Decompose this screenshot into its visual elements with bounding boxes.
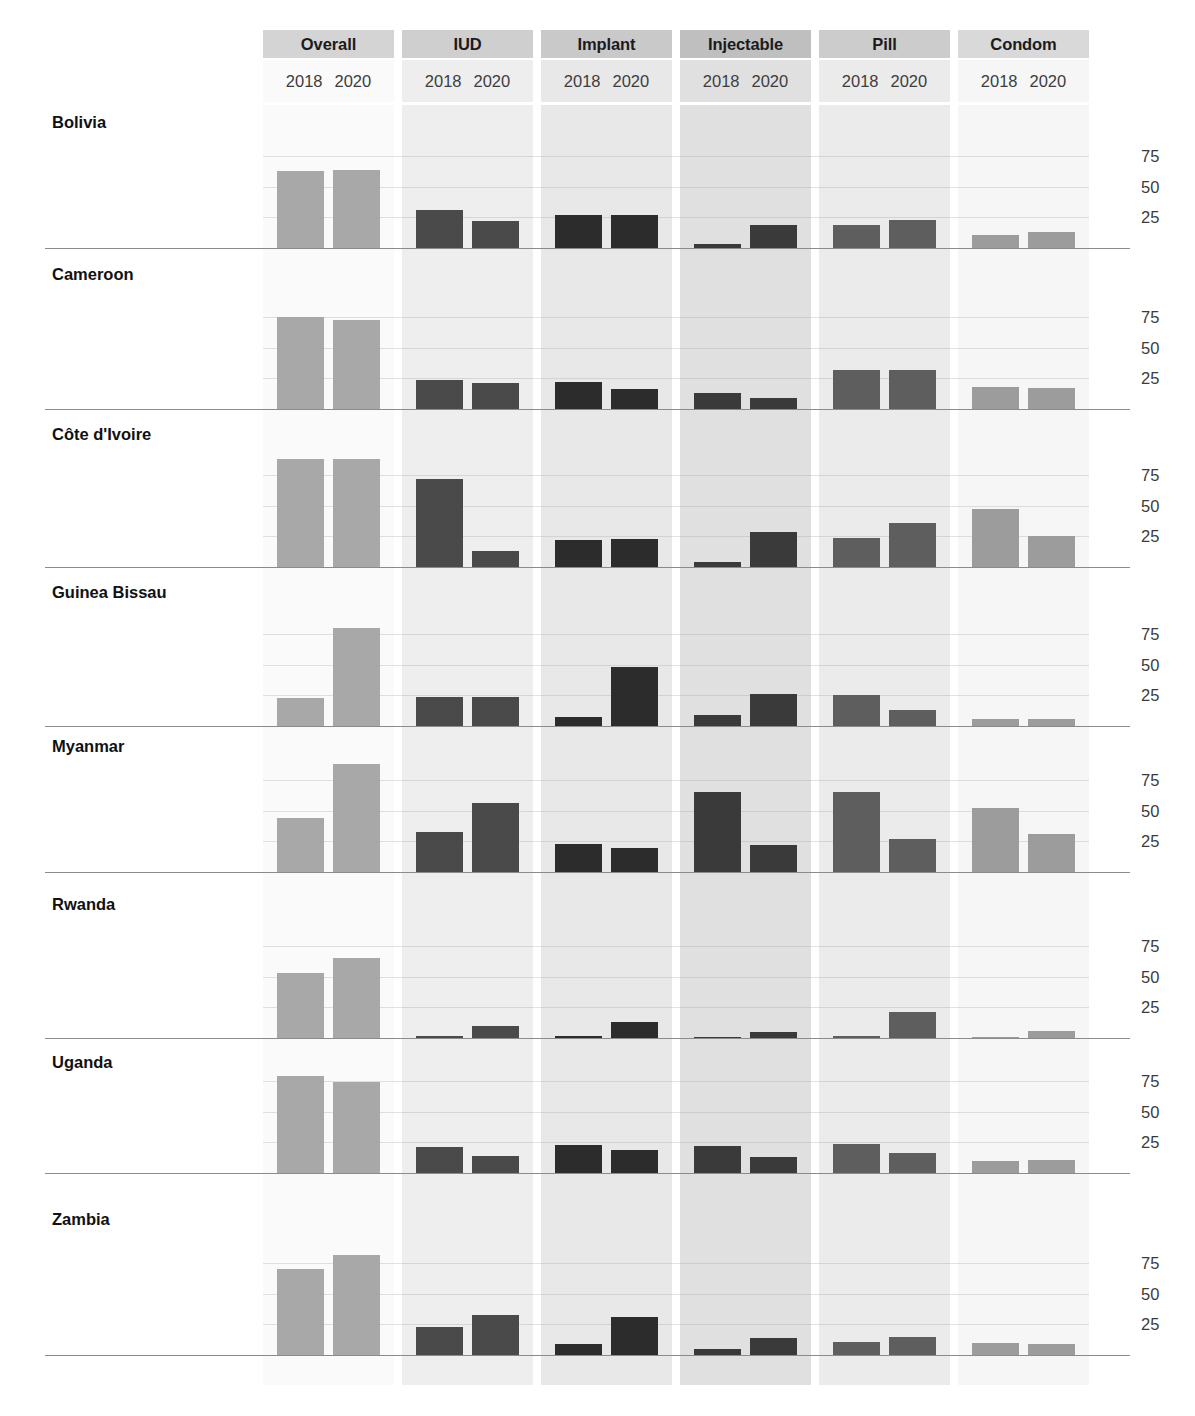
- country-label-c-te-d-ivoire: Côte d'Ivoire: [52, 425, 151, 444]
- bar: [694, 1146, 741, 1173]
- bar: [555, 1036, 602, 1038]
- gridline: [263, 1142, 1089, 1143]
- y-axis-tick-label: 25: [1141, 209, 1159, 226]
- bar: [555, 382, 602, 409]
- facet-year-labels-implant: 20182020: [541, 60, 672, 102]
- country-label-uganda: Uganda: [52, 1053, 113, 1072]
- facet-year-labels-injectable: 20182020: [680, 60, 811, 102]
- bar: [611, 1317, 658, 1355]
- gridline: [263, 946, 1089, 947]
- year-label: 2018: [286, 72, 323, 91]
- y-axis-tick-label: 50: [1141, 657, 1159, 674]
- row-baseline: [45, 567, 1130, 568]
- y-axis-tick-label: 50: [1141, 498, 1159, 515]
- bar: [833, 1036, 880, 1038]
- facet-column-background-iud: [402, 105, 533, 1385]
- y-axis-tick-label: 25: [1141, 1134, 1159, 1151]
- facet-grid-body: 755025Bolivia755025Cameroon755025Côte d'…: [0, 105, 1195, 1395]
- gridline: [263, 536, 1089, 537]
- bar: [889, 1337, 936, 1355]
- bar: [972, 235, 1019, 248]
- year-label: 2020: [752, 72, 789, 91]
- bar: [416, 1327, 463, 1355]
- bar: [611, 1022, 658, 1038]
- facet-header-condom: Condom: [958, 30, 1089, 58]
- facet-header-label: Overall: [301, 35, 356, 54]
- bar: [333, 764, 380, 872]
- country-label-rwanda: Rwanda: [52, 895, 115, 914]
- bar: [416, 832, 463, 872]
- y-axis-tick-label: 50: [1141, 969, 1159, 986]
- year-label: 2020: [335, 72, 372, 91]
- country-label-zambia: Zambia: [52, 1210, 110, 1229]
- y-axis-tick-label: 50: [1141, 340, 1159, 357]
- bar: [889, 1012, 936, 1038]
- bar: [472, 1026, 519, 1038]
- row-baseline: [45, 1038, 1130, 1039]
- year-label: 2018: [564, 72, 601, 91]
- bar: [611, 539, 658, 567]
- bar: [277, 1269, 324, 1355]
- facet-header-pill: Pill: [819, 30, 950, 58]
- facet-header-label: Implant: [578, 35, 636, 54]
- bar: [833, 1144, 880, 1173]
- bar: [1028, 719, 1075, 726]
- gridline: [263, 217, 1089, 218]
- bar: [750, 845, 797, 872]
- bar: [416, 479, 463, 567]
- gridline: [263, 378, 1089, 379]
- bar: [750, 694, 797, 726]
- bar: [416, 1036, 463, 1038]
- bar: [833, 370, 880, 409]
- bar: [611, 389, 658, 409]
- y-axis-tick-label: 50: [1141, 179, 1159, 196]
- bar: [1028, 1160, 1075, 1173]
- y-axis-tick-label: 25: [1141, 1316, 1159, 1333]
- bar: [750, 225, 797, 248]
- bar: [416, 1147, 463, 1173]
- y-axis-tick-label: 50: [1141, 803, 1159, 820]
- bar: [972, 387, 1019, 409]
- facet-header-iud: IUD: [402, 30, 533, 58]
- bar: [694, 562, 741, 567]
- country-label-guinea-bissau: Guinea Bissau: [52, 583, 167, 602]
- facet-year-labels-iud: 20182020: [402, 60, 533, 102]
- row-baseline: [45, 872, 1130, 873]
- facet-header-label: Pill: [872, 35, 896, 54]
- bar: [972, 1037, 1019, 1038]
- row-baseline: [45, 726, 1130, 727]
- y-axis-tick-label: 75: [1141, 309, 1159, 326]
- gridline: [263, 1081, 1089, 1082]
- year-label: 2018: [842, 72, 879, 91]
- year-label: 2018: [703, 72, 740, 91]
- gridline: [263, 1263, 1089, 1264]
- row-baseline: [45, 248, 1130, 249]
- bar: [694, 1037, 741, 1038]
- gridline: [263, 634, 1089, 635]
- y-axis-tick-label: 25: [1141, 370, 1159, 387]
- bar: [277, 1076, 324, 1173]
- gridline: [263, 977, 1089, 978]
- bar: [694, 792, 741, 872]
- country-label-myanmar: Myanmar: [52, 737, 124, 756]
- bar: [333, 1255, 380, 1355]
- bar: [694, 393, 741, 409]
- bar: [611, 1150, 658, 1173]
- bar: [555, 717, 602, 726]
- bar: [972, 509, 1019, 567]
- facet-header-overall: Overall: [263, 30, 394, 58]
- bar: [1028, 834, 1075, 872]
- bar: [333, 1082, 380, 1173]
- bar: [1028, 388, 1075, 409]
- bar: [750, 1338, 797, 1355]
- bar: [889, 710, 936, 726]
- y-axis-tick-label: 75: [1141, 938, 1159, 955]
- bar: [889, 1153, 936, 1173]
- bar: [555, 1145, 602, 1173]
- facet-header-label: Injectable: [708, 35, 783, 54]
- bar: [333, 628, 380, 726]
- facet-year-labels-pill: 20182020: [819, 60, 950, 102]
- bar: [472, 697, 519, 726]
- bar: [750, 532, 797, 567]
- facet-year-labels-condom: 20182020: [958, 60, 1089, 102]
